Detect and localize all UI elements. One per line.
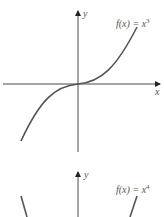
quartic-graph: y f(x) = x4 [21, 169, 150, 217]
quartic-curve-left [21, 196, 27, 217]
cubic-graph: y x f(x) = x3 [3, 8, 160, 152]
y-axis-label: y [83, 169, 89, 180]
function-graphs-diagram: y x f(x) = x3 y f(x) = x4 [0, 0, 164, 217]
function-label-cubic: f(x) = x3 [116, 17, 150, 30]
quartic-curve-right [130, 196, 137, 217]
x-axis-label: x [154, 86, 160, 97]
y-axis-label: y [82, 8, 88, 19]
function-label-quartic: f(x) = x4 [116, 183, 150, 196]
